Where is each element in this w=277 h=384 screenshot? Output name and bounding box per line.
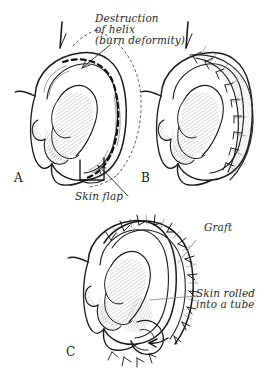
panel-label-c: C: [66, 345, 75, 359]
panel-label-b: B: [141, 171, 150, 185]
panel-a-drawing: [15, 22, 141, 196]
surgical-illustration-figure: Destruction of helix (burn deformity) Sk…: [0, 0, 277, 384]
annotation-destruction-line3: (burn deformity): [95, 35, 185, 46]
panel-b-drawing: [141, 22, 253, 185]
illustration-canvas: [0, 0, 277, 384]
annotation-skin-rolled-line2: into a tube: [196, 299, 255, 310]
annotation-skin-flap: Skin flap: [75, 191, 123, 202]
panel-c-drawing: [68, 215, 198, 367]
annotation-graft: Graft: [204, 222, 232, 233]
panel-label-a: A: [14, 171, 23, 185]
